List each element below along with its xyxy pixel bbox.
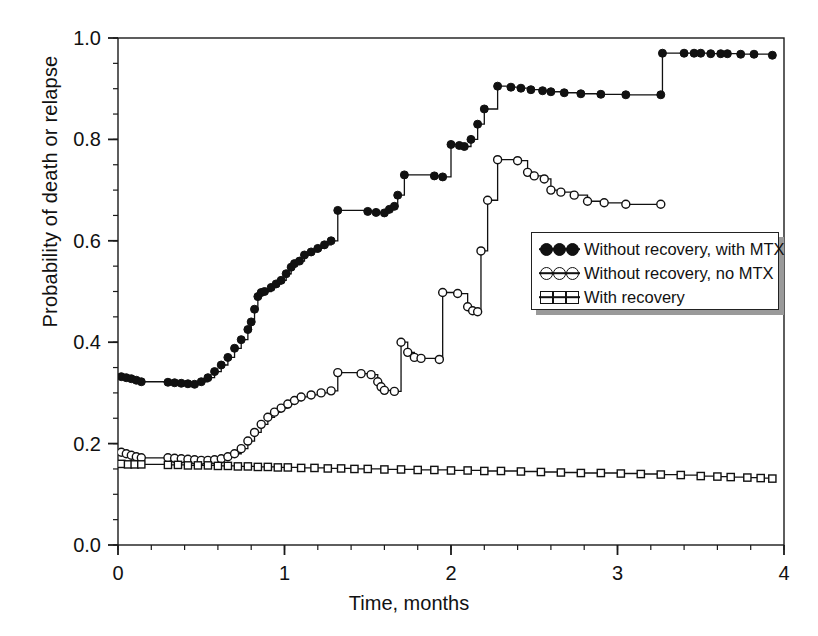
- data-point: [204, 462, 211, 469]
- data-point: [298, 464, 305, 471]
- y-tick-label: 0.8: [73, 128, 101, 150]
- data-point: [530, 172, 538, 180]
- data-point: [597, 90, 605, 98]
- data-point: [723, 50, 731, 58]
- data-point: [540, 175, 548, 183]
- legend-item-no-mtx: Without recovery, no MTX: [540, 261, 772, 285]
- data-point: [727, 473, 734, 480]
- data-point: [517, 468, 524, 475]
- data-point: [338, 465, 345, 472]
- data-point: [494, 82, 502, 90]
- data-point: [351, 465, 358, 472]
- data-point: [769, 475, 776, 482]
- data-point: [750, 50, 758, 58]
- data-point: [447, 140, 455, 148]
- data-point: [657, 91, 665, 99]
- data-point: [194, 462, 201, 469]
- legend-label-with-recovery: With recovery: [584, 288, 685, 307]
- data-point: [507, 83, 515, 91]
- data-point: [577, 90, 585, 98]
- x-tick-label: 1: [279, 562, 290, 584]
- x-axis-label: Time, months: [0, 592, 818, 615]
- data-point: [744, 474, 751, 481]
- data-point: [617, 470, 624, 477]
- data-point: [138, 461, 145, 468]
- data-point: [547, 186, 555, 194]
- data-point: [460, 142, 468, 150]
- data-point: [237, 336, 245, 344]
- data-point: [327, 237, 335, 245]
- chart-figure: 012340.00.20.40.60.81.0 Probability of d…: [0, 0, 818, 636]
- data-point: [697, 472, 704, 479]
- y-axis-label: Probability of death or relapse: [39, 0, 62, 402]
- data-point: [447, 467, 454, 474]
- data-point: [560, 89, 568, 97]
- data-point: [327, 387, 335, 395]
- legend-marker-filled-circle-icon: [540, 243, 584, 256]
- data-point: [372, 208, 380, 216]
- y-tick-label: 0.4: [73, 331, 101, 353]
- data-point: [657, 471, 664, 478]
- legend-item-with-mtx: Without recovery, with MTX: [540, 237, 772, 261]
- data-point: [224, 353, 232, 361]
- data-point: [622, 200, 630, 208]
- data-point: [307, 391, 315, 399]
- data-point: [417, 354, 425, 362]
- data-point: [251, 428, 259, 436]
- data-point: [494, 156, 502, 164]
- data-point: [381, 466, 388, 473]
- data-point: [497, 467, 504, 474]
- data-point: [430, 172, 438, 180]
- data-point: [584, 197, 592, 205]
- data-point: [537, 468, 544, 475]
- data-point: [658, 49, 666, 57]
- legend-marker-open-circle-icon: [540, 267, 584, 280]
- data-point: [394, 191, 402, 199]
- data-point: [264, 463, 271, 470]
- x-tick-label: 4: [778, 562, 789, 584]
- data-point: [557, 469, 564, 476]
- data-point: [357, 370, 365, 378]
- data-point: [184, 462, 191, 469]
- data-point: [334, 206, 342, 214]
- data-point: [737, 50, 745, 58]
- data-point: [274, 464, 281, 471]
- data-point: [397, 466, 404, 473]
- data-point: [251, 305, 259, 313]
- data-point: [454, 290, 462, 298]
- data-point: [697, 49, 705, 57]
- data-point: [224, 462, 231, 469]
- x-tick-label: 3: [612, 562, 623, 584]
- data-point: [137, 378, 145, 386]
- data-point: [439, 289, 447, 297]
- data-point: [367, 371, 375, 379]
- data-point: [257, 420, 265, 428]
- data-point: [570, 191, 578, 199]
- data-point: [254, 463, 261, 470]
- data-point: [464, 467, 471, 474]
- data-point: [547, 88, 555, 96]
- data-point: [334, 369, 342, 377]
- data-point: [317, 389, 325, 397]
- data-point: [768, 51, 776, 59]
- x-tick-label: 2: [445, 562, 456, 584]
- data-point: [474, 120, 482, 128]
- data-point: [657, 200, 665, 208]
- data-point: [577, 469, 584, 476]
- data-point: [284, 464, 291, 471]
- data-point: [390, 387, 398, 395]
- data-point: [364, 465, 371, 472]
- data-point: [414, 466, 421, 473]
- chart-legend: Without recovery, with MTX Without recov…: [531, 232, 779, 310]
- data-point: [217, 361, 225, 369]
- data-point: [244, 437, 252, 445]
- data-point: [231, 344, 239, 352]
- data-point: [380, 386, 388, 394]
- data-point: [474, 308, 482, 316]
- y-tick-label: 0.2: [73, 433, 101, 455]
- data-point: [484, 196, 492, 204]
- data-point: [234, 463, 241, 470]
- data-point: [714, 473, 721, 480]
- legend-marker-open-square-icon: [540, 291, 584, 304]
- data-point: [597, 469, 604, 476]
